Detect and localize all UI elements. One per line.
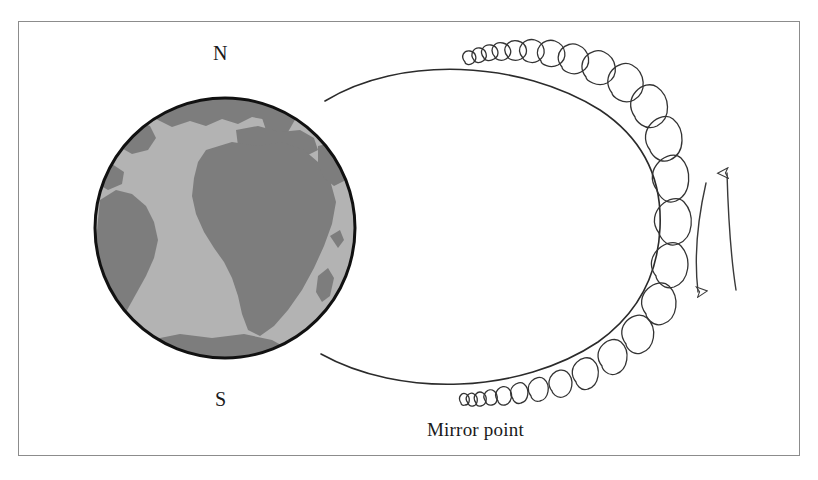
bounce-arrow-down	[696, 183, 706, 292]
helix-loop-upper-2	[472, 48, 486, 63]
helix-loop-lower-4	[572, 358, 598, 390]
magnetosphere-diagram	[0, 0, 818, 480]
helix-loop-upper-11	[631, 85, 668, 128]
helix-loop-lower-8	[496, 387, 512, 406]
figure-root: N S Mirror point	[0, 0, 818, 480]
helix-loop-lower-5	[549, 370, 572, 397]
helix-loop-upper-6	[520, 39, 544, 62]
helix-loop-upper-12	[645, 116, 682, 161]
helix-loop-lower-3	[598, 340, 627, 375]
field-line-path	[321, 69, 660, 384]
helix-loop-upper-10	[608, 63, 643, 101]
earth-globe	[92, 95, 355, 368]
helix-loop-upper-7	[537, 40, 564, 66]
helix-loop-lower-6	[528, 377, 548, 401]
south-pole-label: S	[215, 388, 227, 411]
mirror-point-label: Mirror point	[427, 419, 524, 441]
north-pole-label: N	[213, 42, 228, 65]
helix-loop-lower-12	[460, 394, 470, 406]
bounce-motion-arrows	[696, 173, 736, 292]
helix-loop-lower-7	[510, 383, 527, 404]
helix-loop-lower-2	[622, 315, 654, 353]
particle-helix	[460, 39, 692, 406]
bounce-arrow-up	[727, 173, 736, 290]
helix-loop-upper-1	[463, 51, 476, 65]
magnetic-field-line	[321, 69, 660, 384]
helix-loop-apex-3	[651, 243, 688, 288]
